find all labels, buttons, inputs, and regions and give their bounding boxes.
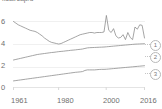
chart-title: kcal/cap/d (2, 0, 34, 3)
y-tick-label-0: 0 (1, 84, 5, 92)
legend-badge-2[interactable]: 2 (150, 52, 161, 63)
plot-area (13, 14, 145, 90)
x-tick-label-1961: 1961 (11, 97, 28, 105)
x-tick-label-1980: 1980 (57, 97, 74, 105)
chart-container: kcal/cap/d 6 4 2 0 1961 1980 2000 2016 1… (0, 0, 162, 109)
y-tick-label-4: 4 (1, 40, 5, 48)
series-line-3 (14, 66, 145, 81)
legend-badge-1[interactable]: 1 (150, 40, 161, 51)
series-line-1 (14, 15, 145, 44)
y-tick-label-2: 2 (1, 62, 5, 70)
legend-badge-3[interactable]: 3 (150, 69, 161, 80)
series-line-2 (14, 44, 145, 60)
y-tick-label-6: 6 (1, 18, 5, 26)
x-tick-label-2016: 2016 (140, 97, 157, 105)
x-tick-label-2000: 2000 (103, 97, 120, 105)
series-layer (13, 14, 145, 90)
